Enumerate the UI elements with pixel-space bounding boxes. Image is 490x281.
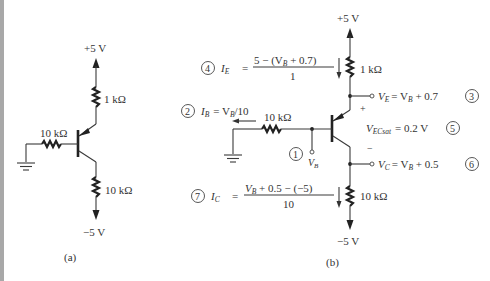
svg-text:1: 1	[293, 149, 298, 160]
step-1-marker: 1	[290, 148, 303, 161]
plus-sign: +	[360, 103, 366, 114]
resistor-base-a	[42, 141, 61, 147]
r-emitter-label-a: 1 kΩ	[104, 93, 126, 105]
resistor-emitter-b	[347, 57, 353, 77]
r-emitter-label-b: 1 kΩ	[360, 63, 382, 75]
collector-leg-b	[333, 136, 350, 147]
equation-6: VC= VB + 0.5 6	[378, 158, 479, 173]
svg-text:5 − (VB + 0.7): 5 − (VB + 0.7)	[254, 54, 317, 68]
equation-3: VE= VB + 0.7 3	[378, 90, 479, 105]
r-base-label-b: 10 kΩ	[264, 111, 291, 123]
figure-frame: +5 V 1 kΩ 10 kΩ −5 V 1	[0, 0, 490, 281]
collector-terminal-icon	[370, 162, 374, 166]
svg-text:=: =	[242, 62, 248, 74]
emitter-terminal-icon	[370, 94, 374, 98]
r-base-label-a: 10 kΩ	[40, 127, 67, 139]
ground-icon-a	[17, 163, 35, 170]
svg-text:IC: IC	[210, 190, 221, 204]
svg-text:6: 6	[469, 159, 474, 170]
svg-text:4: 4	[205, 63, 210, 74]
arrow-down-icon	[337, 72, 342, 79]
svg-text:VE= VB + 0.7: VE= VB + 0.7	[378, 90, 439, 104]
svg-text:3: 3	[469, 91, 474, 102]
svg-text:VC= VB + 0.5: VC= VB + 0.5	[378, 158, 439, 172]
svg-text:IB= VB/10: IB= VB/10	[200, 105, 249, 119]
supply-arrow-down-icon	[93, 210, 100, 220]
supply-neg-label-b: −5 V	[337, 235, 359, 247]
minus-sign: −	[367, 143, 373, 154]
equation-2: 2 IB= VB/10	[182, 105, 250, 120]
arrow-left-icon	[232, 119, 239, 124]
caption-a: (a)	[64, 251, 77, 264]
ground-icon-b	[224, 155, 242, 162]
supply-pos-label-a: +5 V	[84, 42, 106, 54]
r-collector-label-b: 10 kΩ	[360, 190, 387, 202]
equation-4: 4 IE = 5 − (VB + 0.7) 1	[202, 54, 335, 82]
svg-text:7: 7	[195, 191, 200, 202]
resistor-collector-b	[347, 186, 353, 206]
figure-a: +5 V 1 kΩ 10 kΩ −5 V 1	[17, 42, 132, 264]
svg-text:=: =	[232, 190, 238, 202]
collector-leg-a	[79, 151, 96, 162]
vb-label: VB	[308, 157, 319, 170]
supply-arrow-down-icon	[347, 220, 354, 230]
svg-text:VECsat= 0.2 V: VECsat= 0.2 V	[366, 122, 428, 136]
svg-text:5: 5	[450, 123, 455, 134]
emitter-arrow-icon	[79, 128, 90, 136]
svg-text:IE: IE	[220, 62, 230, 76]
arrow-down-icon	[337, 201, 342, 208]
circuit-diagrams: +5 V 1 kΩ 10 kΩ −5 V 1	[0, 0, 490, 281]
equation-5: VECsat= 0.2 V 5	[366, 122, 460, 137]
resistor-base-b	[262, 126, 281, 132]
equation-7: 7 IC = VB + 0.5 − (−5) 10	[192, 182, 335, 210]
emitter-arrow-icon	[333, 113, 344, 121]
base-terminal-icon	[310, 150, 314, 154]
svg-text:2: 2	[185, 106, 190, 117]
svg-text:VB + 0.5 − (−5): VB + 0.5 − (−5)	[245, 182, 313, 196]
svg-text:10: 10	[283, 198, 295, 210]
figure-b: +5 V 1 kΩ VE= VB + 0.7 3 +	[182, 12, 479, 269]
supply-neg-label-a: −5 V	[83, 226, 105, 238]
r-collector-label-a: 10 kΩ	[105, 184, 132, 196]
resistor-collector-a	[93, 177, 99, 197]
supply-pos-label-b: +5 V	[337, 12, 359, 24]
caption-b: (b)	[326, 256, 339, 269]
svg-text:1: 1	[290, 70, 296, 82]
resistor-emitter-a	[93, 87, 99, 107]
